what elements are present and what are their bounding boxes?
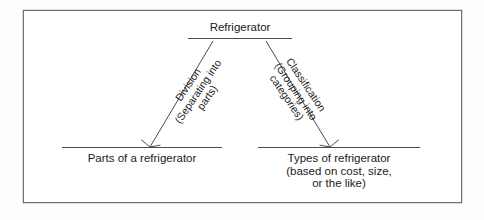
node-root: Refrigerator	[188, 21, 292, 34]
node-types-line-3: or the like)	[258, 177, 420, 190]
figure-page: Refrigerator Division (Separating into p…	[0, 0, 484, 220]
node-types-line-2: (based on cost, size,	[258, 165, 420, 178]
node-parts-line-1: Parts of a refrigerator	[62, 152, 222, 165]
node-types-line-1: Types of refrigerator	[258, 152, 420, 165]
node-types-of-refrigerator: Types of refrigerator (based on cost, si…	[258, 152, 420, 190]
node-root-label: Refrigerator	[188, 21, 292, 34]
node-parts-of-a-refrigerator: Parts of a refrigerator	[62, 152, 222, 165]
